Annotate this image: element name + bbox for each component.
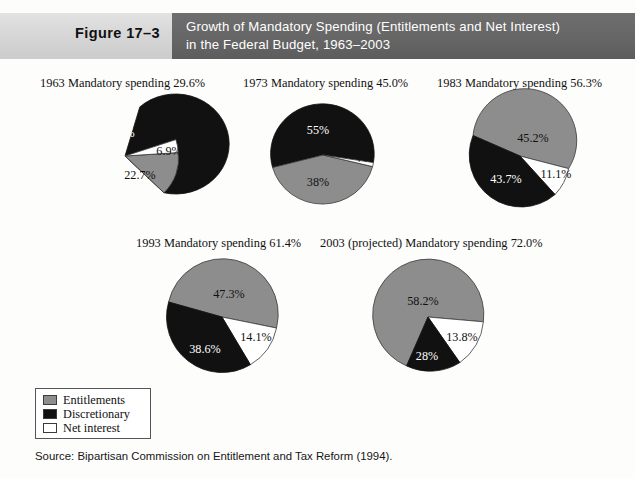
pie-1993-label-entitlements: 47.3%	[213, 287, 244, 301]
source-note: Source: Bipartisan Commission on Entitle…	[35, 450, 393, 462]
legend-swatch-entitlements	[43, 395, 57, 405]
figure-title: Growth of Mandatory Spending (Entitlemen…	[186, 18, 626, 54]
legend-item-entitlements: Entitlements	[43, 393, 144, 407]
figure-title-line2: in the Federal Budget, 1963–2003	[186, 36, 626, 54]
pie-1983-svg: 45.2% 11.1% 43.7%	[463, 102, 587, 212]
pie-1973-label-netinterest: 7%	[357, 151, 373, 165]
pie-chart-1993: 47.3% 14.1% 38.6%	[164, 260, 288, 378]
pie-caption-1973: 1973 Mandatory spending 45.0%	[243, 76, 408, 91]
pie-2003-label-entitlements: 58.2%	[407, 294, 438, 308]
legend: Entitlements Discretionary Net interest	[35, 388, 151, 439]
pie-1983-label-entitlements: 45.2%	[517, 131, 548, 145]
figure-number-label: Figure 17–3	[75, 25, 160, 41]
figure-title-band: Growth of Mandatory Spending (Entitlemen…	[172, 13, 635, 59]
pie-2003-label-netinterest: 13.8%	[446, 330, 477, 344]
pie-1993-label-discretionary: 38.6%	[189, 342, 220, 356]
pie-1983-label-netinterest: 11.1%	[540, 167, 571, 181]
pie-caption-1963: 1963 Mandatory spending 29.6%	[40, 76, 205, 91]
pie-1973-svg: 55% 38% 7%	[268, 103, 388, 209]
pie-chart-1983: 45.2% 11.1% 43.7%	[463, 102, 587, 212]
pie-2003-svg: 58.2% 13.8% 28%	[370, 260, 494, 378]
figure-number-band: Figure 17–3	[0, 13, 172, 59]
pie-1973-label-entitlements: 38%	[307, 175, 329, 189]
pie-1973-label-discretionary: 55%	[307, 123, 329, 137]
pie-1963-label-netinterest: 6.9%	[156, 144, 181, 158]
pie-chart-2003: 58.2% 13.8% 28%	[370, 260, 494, 378]
pie-1963-label-entitlements: 22.7%	[124, 168, 155, 182]
pie-1993-svg: 47.3% 14.1% 38.6%	[164, 260, 288, 378]
legend-item-netinterest: Net interest	[43, 421, 144, 435]
pie-caption-2003: 2003 (projected) Mandatory spending 72.0…	[320, 236, 543, 251]
figure-title-line1: Growth of Mandatory Spending (Entitlemen…	[186, 19, 560, 34]
legend-label-entitlements: Entitlements	[63, 393, 125, 408]
legend-swatch-discretionary	[43, 409, 57, 419]
legend-label-netinterest: Net interest	[63, 421, 120, 436]
pie-1963-svg: 70.4% 22.7% 6.9%	[68, 103, 192, 209]
legend-item-discretionary: Discretionary	[43, 407, 144, 421]
pie-1963-label-discretionary: 70.4%	[103, 126, 134, 140]
pie-chart-1963: 70.4% 22.7% 6.9%	[68, 103, 192, 209]
figure-page: Figure 17–3 Growth of Mandatory Spending…	[0, 0, 635, 478]
pie-2003-label-discretionary: 28%	[416, 349, 438, 363]
pie-chart-1973: 55% 38% 7%	[268, 103, 388, 209]
figure-header: Figure 17–3 Growth of Mandatory Spending…	[0, 13, 635, 59]
legend-swatch-netinterest	[43, 423, 57, 433]
pie-1983-label-discretionary: 43.7%	[490, 172, 521, 186]
pie-caption-1993: 1993 Mandatory spending 61.4%	[136, 236, 301, 251]
legend-label-discretionary: Discretionary	[63, 407, 130, 422]
pie-1993-label-netinterest: 14.1%	[240, 330, 271, 344]
